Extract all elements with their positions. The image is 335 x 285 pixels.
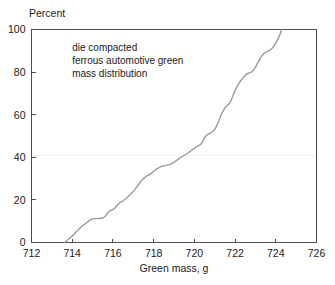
x-tick-label-720: 720 bbox=[186, 247, 204, 259]
y-tick-label-40: 40 bbox=[14, 151, 26, 163]
x-axis-title: Green mass, g bbox=[140, 262, 209, 274]
y-tick-label-60: 60 bbox=[14, 109, 26, 121]
y-tick-label-80: 80 bbox=[14, 66, 26, 78]
x-tick-label-726: 726 bbox=[308, 247, 326, 259]
distribution-chart: Percent 020406080100 7127147167187207227… bbox=[0, 0, 335, 285]
chart-container: Percent 020406080100 7127147167187207227… bbox=[0, 0, 335, 285]
annotation-line-3: mass distribution bbox=[72, 68, 147, 79]
x-tick-label-718: 718 bbox=[145, 247, 163, 259]
x-tick-label-722: 722 bbox=[226, 247, 244, 259]
annotation-line-1: die compacted bbox=[72, 42, 137, 53]
y-axis-title: Percent bbox=[29, 7, 65, 19]
x-tick-label-716: 716 bbox=[104, 247, 122, 259]
x-tick-label-714: 714 bbox=[63, 247, 81, 259]
x-tick-label-724: 724 bbox=[267, 247, 285, 259]
x-tick-label-712: 712 bbox=[23, 247, 41, 259]
annotation-line-2: ferrous automotive green bbox=[72, 55, 183, 66]
y-tick-label-100: 100 bbox=[8, 23, 26, 35]
y-tick-label-20: 20 bbox=[14, 194, 26, 206]
